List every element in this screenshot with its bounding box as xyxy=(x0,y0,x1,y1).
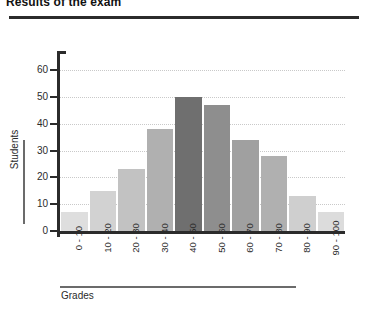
bar xyxy=(232,140,259,231)
x-axis-tick-label: 0 - 10 xyxy=(74,226,84,250)
gridline xyxy=(60,97,345,98)
x-axis-tick-label: 80 - 90 xyxy=(302,223,312,253)
y-axis-tick-label: 50 xyxy=(2,92,48,102)
x-axis-title-label: Grades xyxy=(61,290,94,301)
x-axis-tick-label: 20 - 30 xyxy=(131,223,141,253)
bar xyxy=(147,129,174,231)
chart-header: Results of the exam xyxy=(0,0,368,24)
y-axis-top-cap xyxy=(57,51,66,54)
bar xyxy=(261,156,288,231)
x-axis-tick-slot: 30 - 40 xyxy=(146,236,175,286)
bar xyxy=(118,169,145,231)
gridline xyxy=(60,177,345,178)
x-axis-tick-slot: 50 - 60 xyxy=(203,236,232,286)
bar-chart: 0102030405060 Students 0 - 1010 - 2020 -… xyxy=(0,24,368,309)
gridline xyxy=(60,70,345,71)
y-axis-tick xyxy=(50,123,58,125)
y-axis-tick-label: 10 xyxy=(2,199,48,209)
x-axis-tick-slot: 70 - 80 xyxy=(260,236,289,286)
y-axis-tick xyxy=(50,176,58,178)
x-axis-tick-label: 70 - 80 xyxy=(274,223,284,253)
x-axis-tick-slot: 10 - 20 xyxy=(89,236,118,286)
y-axis-title: Students xyxy=(0,144,54,160)
x-axis-tick-slot: 40 - 50 xyxy=(174,236,203,286)
x-axis-title-rule xyxy=(60,286,296,288)
x-axis-tick-label: 30 - 40 xyxy=(160,223,170,253)
plot-area xyxy=(60,57,345,231)
x-axis-tick-slot: 60 - 70 xyxy=(231,236,260,286)
x-axis-tick-label: 10 - 20 xyxy=(103,223,113,253)
x-axis-tick-slot: 0 - 10 xyxy=(60,236,89,286)
x-axis-tick-slot: 90 - 100 xyxy=(317,236,346,286)
x-axis-tick-label: 40 - 50 xyxy=(188,223,198,253)
title-divider xyxy=(9,16,359,19)
page-title: Results of the exam xyxy=(6,0,121,9)
x-axis-tick-label: 50 - 60 xyxy=(217,223,227,253)
x-axis-tick-slot: 20 - 30 xyxy=(117,236,146,286)
y-axis-tick-label: 60 xyxy=(2,65,48,75)
y-axis-tick xyxy=(50,230,58,232)
y-axis-tick xyxy=(50,203,58,205)
y-axis-tick xyxy=(50,150,58,152)
gridline xyxy=(60,151,345,152)
x-axis-tick-label: 90 - 100 xyxy=(331,221,341,256)
bar xyxy=(175,97,202,231)
y-axis-title-label: Students xyxy=(9,110,20,190)
x-axis-tick-slot: 80 - 90 xyxy=(288,236,317,286)
gridline xyxy=(60,124,345,125)
x-axis-tick-label: 60 - 70 xyxy=(245,223,255,253)
y-axis-tick xyxy=(50,96,58,98)
x-axis-tick-labels: 0 - 1010 - 2020 - 3030 - 4040 - 5050 - 6… xyxy=(60,236,345,286)
bar xyxy=(204,105,231,231)
y-axis-tick xyxy=(50,69,58,71)
y-axis-tick-label: 0 xyxy=(2,226,48,236)
